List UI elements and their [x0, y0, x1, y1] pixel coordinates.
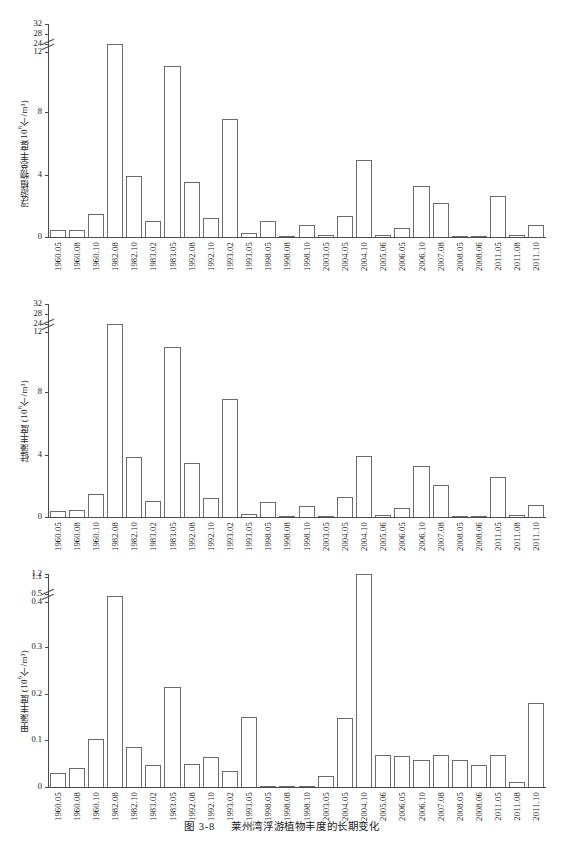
y-axis-tick [45, 237, 49, 238]
x-axis-tick-label: 1993.05 [244, 242, 254, 271]
bar [241, 514, 257, 517]
x-axis-tick-label: 2008.05 [455, 522, 465, 551]
y-axis-tick-label: 12 [6, 47, 42, 55]
y-axis-tick [45, 112, 49, 113]
y-axis-tick-label: 0.2 [6, 689, 42, 697]
bar [375, 515, 391, 517]
x-axis-tick-label: 1998.10 [302, 242, 312, 271]
y-axis-tick-label: 4 [6, 450, 42, 458]
x-axis-tick-label: 2006.05 [397, 242, 407, 271]
y-axis-tick-label: 0 [6, 512, 42, 520]
bar [318, 235, 334, 237]
bar [69, 510, 85, 517]
x-axis-tick-label: 1992.08 [187, 242, 197, 271]
y-axis-tick-label: 24 [6, 39, 42, 47]
y-axis-tick [45, 574, 49, 575]
y-axis-tick [45, 517, 49, 518]
x-axis-tick-label: 2007.08 [436, 792, 446, 821]
bar [88, 214, 104, 237]
x-axis-tick-label: 2006.10 [417, 792, 427, 821]
bar [433, 755, 449, 787]
y-axis-tick-label: 32 [6, 299, 42, 307]
y-axis-tick-label: 28 [6, 29, 42, 37]
bar [145, 501, 161, 517]
y-axis-tick [45, 332, 49, 333]
y-axis-tick [45, 577, 49, 578]
y-axis-tick [45, 175, 49, 176]
bar [241, 717, 257, 787]
x-axis-tick-label: 2004.05 [340, 522, 350, 551]
x-axis-tick-label: 1992.08 [187, 792, 197, 821]
y-axis-tick-label: 0.1 [6, 735, 42, 743]
y-axis-tick [45, 787, 49, 788]
x-axis-tick-label: 2007.08 [436, 522, 446, 551]
bar [260, 502, 276, 517]
x-axis-tick-label: 2005.06 [378, 522, 388, 551]
bar [107, 44, 123, 238]
y-axis-tick [45, 602, 49, 603]
x-axis-tick-label: 2011.05 [493, 792, 503, 821]
x-axis-tick-label: 1960.08 [72, 792, 82, 821]
bar [126, 747, 142, 787]
bar [337, 718, 353, 787]
bar [509, 782, 525, 787]
y-axis-line [48, 574, 49, 787]
y-axis-tick [45, 52, 49, 53]
x-axis-tick-label: 1983.02 [148, 792, 158, 821]
y-axis-tick-label: 8 [6, 387, 42, 395]
y-axis-tick-label: 8 [6, 107, 42, 115]
x-axis-tick-label: 1998.08 [282, 792, 292, 821]
bar [50, 511, 66, 517]
x-axis-tick-label: 1998.05 [263, 792, 273, 821]
y-axis-tick-label: 0 [6, 782, 42, 790]
x-axis-line [48, 517, 546, 518]
x-axis-tick-label: 1993.02 [225, 522, 235, 551]
x-axis-tick-label: 1983.02 [148, 522, 158, 551]
x-axis-tick-label: 1998.05 [263, 522, 273, 551]
bar [279, 236, 295, 237]
x-axis-tick-label: 2006.10 [417, 242, 427, 271]
x-axis-tick-label: 2004.05 [340, 242, 350, 271]
bar [164, 347, 180, 517]
bar [528, 225, 544, 237]
x-axis-tick-label: 2004.10 [359, 792, 369, 821]
x-axis-tick-label: 2004.05 [340, 792, 350, 821]
y-axis-line [48, 304, 49, 517]
x-axis-tick-label: 2011.05 [493, 242, 503, 271]
bar [184, 463, 200, 517]
y-axis-tick [45, 304, 49, 305]
chart-panel-total-phytoplankton: 浮游植物总丰度(106个/m³)048122428321960.051960.0… [0, 2, 564, 282]
y-axis-tick [45, 455, 49, 456]
x-axis-tick-label: 1960.05 [53, 242, 63, 271]
x-axis-tick-label: 1960.08 [72, 522, 82, 551]
figure-number: 图 3-8 [184, 821, 215, 832]
bar [69, 230, 85, 237]
x-axis-tick-label: 1982.08 [110, 792, 120, 821]
bar [413, 760, 429, 787]
x-axis-tick-label: 2011.10 [531, 242, 541, 271]
x-axis-tick-label: 2011.08 [512, 242, 522, 271]
x-axis-tick-label: 1998.08 [282, 522, 292, 551]
bar [164, 687, 180, 787]
x-axis-tick-label: 1982.08 [110, 242, 120, 271]
bar [299, 506, 315, 517]
bar [356, 456, 372, 517]
y-axis-tick-label: 0.3 [6, 642, 42, 650]
y-axis-tick-label: 1.2 [6, 569, 42, 577]
bar [337, 497, 353, 517]
y-axis-tick-label: 0.4 [6, 597, 42, 605]
bar [260, 786, 276, 787]
bar [375, 235, 391, 237]
bar [203, 498, 219, 517]
bar [50, 230, 66, 237]
x-axis-tick-label: 2008.06 [474, 522, 484, 551]
bar [452, 760, 468, 787]
bar [222, 399, 238, 517]
x-axis-tick-label: 1960.05 [53, 792, 63, 821]
bar [126, 457, 142, 517]
y-axis-tick-label: 0.5 [6, 589, 42, 597]
x-axis-tick-label: 1983.02 [148, 242, 158, 271]
y-axis-tick-label: 24 [6, 319, 42, 327]
bar [50, 773, 66, 787]
bar [145, 221, 161, 237]
